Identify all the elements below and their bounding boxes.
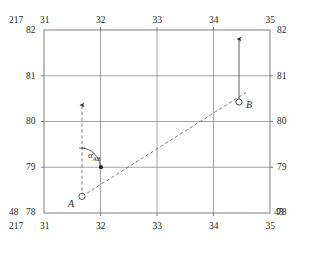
bottom-tick-34: 34 [209,222,219,232]
top-tick-31: 31 [40,16,50,26]
left-tick-80: 80 [26,117,36,127]
angle-subscript: AB [93,155,101,162]
point-label-B: B [246,100,252,110]
left-tick-78: 78 [26,208,36,218]
bottom-tick-33: 33 [153,222,163,232]
angle-label: αAB [88,151,100,162]
corner-bottom-left-outer2: 217 [9,222,23,232]
bottom-tick-32: 32 [96,222,106,232]
corner-bottom-left-outer: 48 [9,208,19,218]
right-tick-80: 80 [277,117,287,127]
left-tick-82: 82 [26,26,36,36]
right-tick-79: 79 [277,163,287,173]
vertex-dot [99,165,103,169]
right-tick-82: 82 [277,26,287,36]
bottom-tick-35: 35 [266,222,276,232]
left-tick-79: 79 [26,163,36,173]
point-marker-A[interactable] [79,193,85,199]
right-tick-81: 81 [277,72,287,82]
line-A-to-B [82,93,246,197]
corner-top-left-outer: 217 [9,16,23,26]
top-tick-35: 35 [266,16,276,26]
point-label-A: A [68,199,74,209]
left-tick-81: 81 [26,72,36,82]
corner-bottom-right-outer: 48 [274,208,284,218]
bearing-angle-diagram [0,0,314,253]
point-marker-B[interactable] [236,99,242,105]
top-tick-33: 33 [153,16,163,26]
top-tick-32: 32 [96,16,106,26]
top-tick-34: 34 [209,16,219,26]
bottom-tick-31: 31 [40,222,50,232]
